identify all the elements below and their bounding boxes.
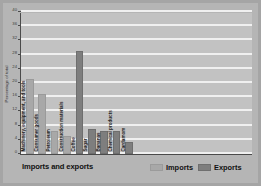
- y-axis-tick-label: 12: [12, 107, 17, 111]
- y-axis-tick: [18, 153, 21, 154]
- y-axis-tick-label: 8: [15, 121, 17, 125]
- bar-category-label: Cardamom: [122, 128, 127, 152]
- gridline: [21, 124, 252, 126]
- plot-area: 0481216202428323640 Machinery, equipment…: [20, 13, 252, 155]
- y-axis-tick-label: 40: [12, 8, 17, 12]
- y-axis-tick-label: 0: [15, 150, 17, 154]
- gridline: [21, 81, 252, 83]
- y-axis-title: Percentage of total: [3, 13, 11, 155]
- y-axis-title-text: Percentage of total: [5, 66, 9, 103]
- gridline: [21, 67, 252, 69]
- legend-swatch-imports: [150, 164, 163, 171]
- y-axis-tick: [18, 11, 21, 12]
- gridline: [21, 38, 252, 40]
- bar: [88, 129, 96, 154]
- bar-category-label: Consumer goods: [35, 114, 40, 152]
- bar-category-label: Chemical products: [110, 111, 115, 152]
- y-axis-tick-label: 20: [12, 79, 17, 83]
- gridline: [21, 10, 252, 12]
- y-axis-tick-label: 16: [12, 93, 17, 97]
- y-axis-tick: [18, 39, 21, 40]
- y-axis-tick: [18, 68, 21, 69]
- bar-category-label: Coffee: [72, 138, 77, 152]
- bar-category-label: Bananas: [97, 133, 102, 152]
- bar-category-label: Sugar: [85, 139, 90, 152]
- bar-category-label: Machinery, equipment, and tools: [23, 81, 28, 152]
- y-axis-tick: [18, 54, 21, 55]
- gridline: [21, 95, 252, 97]
- bar-category-label: Petroleum: [48, 130, 53, 152]
- legend-label-exports: Exports: [214, 163, 242, 172]
- chart-title: Imports and exports: [22, 163, 93, 171]
- y-axis-tick-label: 28: [12, 50, 17, 54]
- legend-label-imports: Imports: [166, 163, 193, 172]
- y-axis-tick: [18, 25, 21, 26]
- chart-footer: Imports and exports Imports Exports: [0, 157, 261, 186]
- legend-swatch-exports: [198, 164, 211, 171]
- y-axis-tick-label: 32: [12, 36, 17, 40]
- gridline: [21, 109, 252, 111]
- gridline: [21, 24, 252, 26]
- y-axis-tick-label: 36: [12, 22, 17, 26]
- bar: [26, 79, 34, 154]
- y-axis-tick-label: 4: [15, 136, 17, 140]
- chart-figure: Percentage of total 0481216202428323640 …: [0, 0, 261, 186]
- bar-category-label: Construction materials: [60, 102, 65, 152]
- gridline: [21, 53, 252, 55]
- y-axis-tick-label: 24: [12, 65, 17, 69]
